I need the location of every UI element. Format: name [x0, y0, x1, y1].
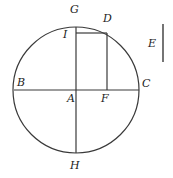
point-label-h: H: [70, 160, 80, 171]
point-label-i: I: [63, 29, 67, 40]
point-label-g: G: [70, 4, 79, 15]
point-label-b: B: [17, 77, 25, 88]
point-label-d: D: [103, 13, 112, 24]
point-label-a: A: [67, 93, 75, 104]
point-label-e: E: [148, 38, 156, 49]
geometry-figure: G D I E B A F C H: [0, 0, 173, 178]
point-label-f: F: [101, 93, 109, 104]
point-label-c: C: [142, 78, 150, 89]
